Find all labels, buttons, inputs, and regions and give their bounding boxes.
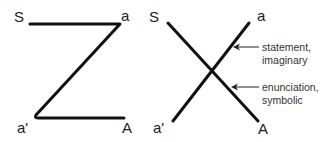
- schema-z: S a a' A: [14, 7, 132, 136]
- annotation-statement-line2: imaginary: [262, 54, 308, 66]
- lacan-schema-diagram: S a a' A S a a' A statement, imaginary e…: [0, 0, 331, 142]
- annotation-enunciation-line1: enunciation,: [262, 81, 319, 93]
- z-label-a: a: [121, 7, 130, 24]
- z-shape-path: [30, 24, 124, 118]
- x-line-S-to-A: [168, 23, 258, 121]
- annotation-statement: statement, imaginary: [233, 41, 311, 66]
- schema-x: S a a' A statement, imaginary enunciatio…: [149, 7, 319, 137]
- z-label-a-prime: a': [17, 119, 28, 136]
- x-label-a: a: [257, 7, 266, 24]
- x-line-a-to-a-prime: [173, 23, 249, 121]
- x-label-S: S: [149, 8, 159, 25]
- z-label-S: S: [14, 8, 24, 25]
- annotation-enunciation: enunciation, symbolic: [231, 81, 319, 106]
- x-label-a-prime: a': [153, 119, 164, 136]
- annotation-statement-line1: statement,: [262, 41, 311, 53]
- annotation-enunciation-line2: symbolic: [262, 94, 303, 106]
- x-label-A: A: [258, 120, 268, 137]
- z-label-A: A: [122, 119, 132, 136]
